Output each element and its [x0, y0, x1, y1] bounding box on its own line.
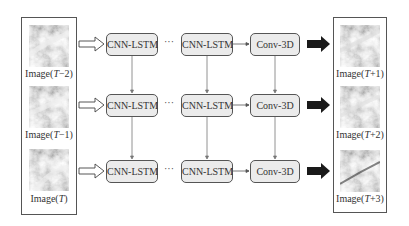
output-arrow-row-2 — [307, 97, 330, 113]
input-arrow-row-2 — [79, 98, 104, 112]
cnn-lstm-cell-row-1-col-2: CNN-LSTM — [181, 33, 233, 56]
cnn-lstm-cell-row-2-col-1: CNN-LSTM — [106, 94, 158, 117]
conv3d-row-1: Conv-3D — [250, 33, 300, 56]
conv3d-row-2: Conv-3D — [250, 94, 300, 117]
cnn-lstm-cell-row-3-col-1: CNN-LSTM — [106, 160, 158, 183]
input-arrow-row-1 — [79, 37, 104, 51]
output-arrow-row-3 — [307, 163, 330, 179]
output-arrow-row-1 — [307, 36, 330, 52]
conv3d-row-3: Conv-3D — [250, 160, 300, 183]
cnn-lstm-cell-row-2-col-2: CNN-LSTM — [181, 94, 233, 117]
cnn-lstm-cell-row-1-col-1: CNN-LSTM — [106, 33, 158, 56]
ellipsis-row-3: ··· — [164, 163, 174, 174]
ellipsis-row-1: ··· — [164, 36, 174, 47]
input-arrow-row-3 — [79, 164, 104, 178]
ellipsis-row-2: ··· — [164, 97, 174, 108]
cnn-lstm-cell-row-3-col-2: CNN-LSTM — [181, 160, 233, 183]
